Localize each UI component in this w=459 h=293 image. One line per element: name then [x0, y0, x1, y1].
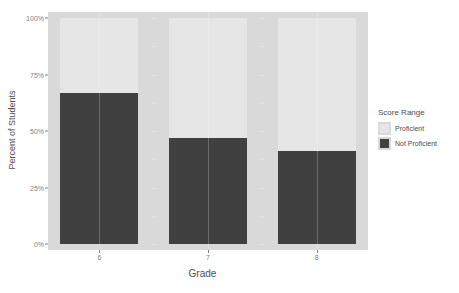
legend-title: Score Range — [378, 108, 456, 117]
legend: Score Range ProficientNot Proficient — [378, 108, 456, 152]
legend-swatch — [380, 139, 389, 148]
plot-panel — [48, 12, 368, 250]
facet-panel — [48, 12, 151, 250]
stacked-bar-chart: Percent of Students 0%25%50%75%100% 678 … — [0, 0, 459, 293]
facet-panel — [157, 12, 260, 250]
gridline-vertical — [317, 12, 318, 250]
y-axis-ticks: 0%25%50%75%100% — [18, 12, 48, 250]
y-tick-label: 75% — [30, 71, 44, 78]
x-tick-mark — [208, 250, 209, 253]
legend-swatch — [380, 124, 389, 133]
x-tick-mark — [99, 250, 100, 253]
legend-key — [378, 122, 391, 135]
y-tick-label: 50% — [30, 128, 44, 135]
legend-item: Not Proficient — [378, 137, 456, 150]
legend-key — [378, 137, 391, 150]
legend-item: Proficient — [378, 122, 456, 135]
y-axis-title-label: Percent of Students — [7, 90, 17, 169]
gridline-vertical — [99, 12, 100, 250]
legend-label: Proficient — [395, 125, 424, 132]
gridline-vertical — [208, 12, 209, 250]
y-tick-label: 0% — [34, 241, 44, 248]
legend-items: ProficientNot Proficient — [378, 122, 456, 150]
x-tick-label: 6 — [97, 254, 101, 261]
y-tick-label: 25% — [30, 184, 44, 191]
y-tick-label: 100% — [26, 15, 44, 22]
x-axis-title: Grade — [30, 268, 375, 279]
x-axis-ticks: 678 — [48, 250, 368, 266]
x-tick-label: 7 — [206, 254, 210, 261]
x-tick-mark — [317, 250, 318, 253]
legend-label: Not Proficient — [395, 140, 437, 147]
x-tick-label: 8 — [315, 254, 319, 261]
facet-panel — [265, 12, 368, 250]
